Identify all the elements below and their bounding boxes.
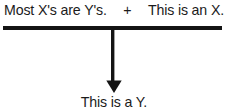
conclusion-text: This is a Y.	[0, 94, 228, 110]
conjunction-plus-symbol: +	[122, 2, 132, 18]
minor-premise-text: This is an X.	[148, 2, 224, 18]
premises-row: Most X's are Y's. + This is an X.	[4, 2, 224, 22]
major-premise-text: Most X's are Y's.	[4, 2, 107, 18]
inference-diagram: Most X's are Y's. + This is an X. This i…	[0, 0, 228, 110]
downward-arrow-icon	[106, 29, 122, 93]
